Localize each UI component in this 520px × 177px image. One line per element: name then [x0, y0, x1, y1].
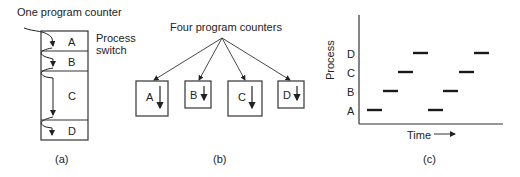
process-a-label: A [146, 91, 153, 103]
process-switch-label-1: Process [96, 32, 136, 44]
segment-d-label: D [68, 125, 76, 137]
panel-b-process-boxes [136, 81, 304, 116]
process-b-label: B [190, 89, 197, 101]
y-axis-label: Process [324, 40, 336, 80]
y-tick-a: A [347, 105, 354, 117]
caption-a: (a) [55, 153, 68, 165]
y-tick-b: B [347, 86, 354, 98]
y-tick-d: D [347, 48, 355, 60]
segment-c-label: C [68, 90, 76, 102]
y-tick-c: C [347, 67, 355, 79]
process-d-label: D [283, 89, 291, 101]
panel-c-axes [359, 15, 503, 124]
caption-c: (c) [423, 153, 436, 165]
panel-b-fanout-arrows [154, 38, 290, 80]
process-switch-label-2: switch [96, 44, 127, 56]
panel-a-memory-box [41, 31, 88, 140]
caption-b: (b) [213, 153, 226, 165]
one-program-counter-label: One program counter [17, 6, 122, 18]
segment-a-label: A [68, 36, 75, 48]
panel-a-counter-path [24, 28, 53, 135]
segment-b-label: B [68, 56, 75, 68]
four-program-counters-label: Four program counters [170, 21, 282, 33]
x-axis-label: Time [407, 129, 431, 141]
process-c-label: C [238, 91, 246, 103]
panel-c-timeline-bars [367, 53, 489, 110]
